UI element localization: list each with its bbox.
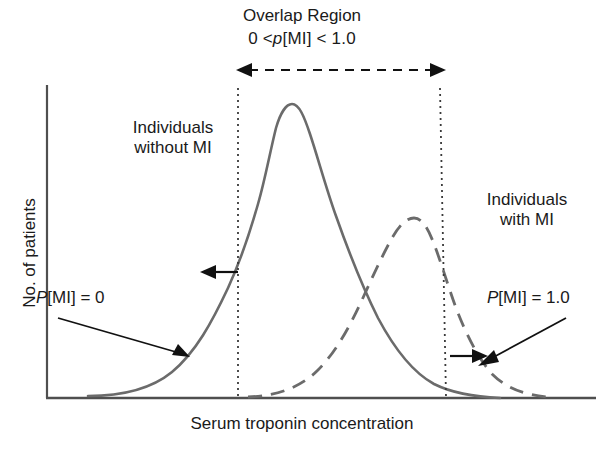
overlap-probability-text: 0 <p[MI] < 1.0 xyxy=(0,29,604,49)
label-individuals-without-mi: Individuals without MI xyxy=(98,118,248,158)
overlap-region-title: Overlap Region xyxy=(0,6,604,26)
p-zero-leader-shaft xyxy=(58,318,176,352)
right-boundary-line xyxy=(440,88,446,397)
label-individuals-with-mi: Individuals with MI xyxy=(452,190,602,230)
overlap-span-arrowhead-right xyxy=(430,63,446,77)
figure-root: Overlap Region 0 <p[MI] < 1.0 Individual… xyxy=(0,0,604,456)
p-one-variable: P xyxy=(487,288,498,307)
overlap-span-arrowhead-left xyxy=(236,63,252,77)
label-probability-mi-zero: P[MI] = 0 xyxy=(36,288,105,308)
p-one-rest: [MI] = 1.0 xyxy=(498,288,569,307)
p-zero-rest: [MI] = 0 xyxy=(47,288,104,307)
y-axis-label: No. of patients xyxy=(20,173,40,333)
overlap-prob-prefix: 0 < xyxy=(248,29,273,48)
p-zero-pointer-arrowhead xyxy=(200,265,216,279)
x-axis-label: Serum troponin concentration xyxy=(0,414,604,434)
overlap-prob-variable: p xyxy=(273,29,283,48)
overlap-prob-suffix: [MI] < 1.0 xyxy=(283,29,356,48)
label-probability-mi-one: P[MI] = 1.0 xyxy=(487,288,570,308)
p-one-leader-shaft xyxy=(492,318,566,358)
p-zero-leader-arrowhead xyxy=(172,344,190,357)
